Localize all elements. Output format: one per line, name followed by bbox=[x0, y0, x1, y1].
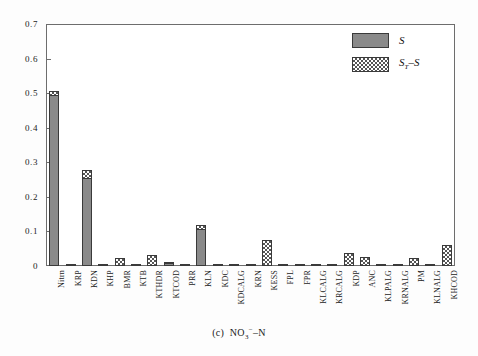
bar-segment-st-minus-s bbox=[262, 240, 272, 266]
y-tick-label: 0.6 bbox=[25, 54, 38, 64]
x-tick-label-prr: PRR bbox=[188, 270, 197, 286]
y-tick-label: 0.3 bbox=[25, 157, 38, 167]
x-tick-label-kdc: KDC bbox=[221, 270, 230, 288]
bar-kdp bbox=[344, 253, 354, 266]
y-tick-label: 0.1 bbox=[25, 226, 38, 236]
x-tick-label-anc: ANC bbox=[368, 270, 377, 288]
legend: S ST–S bbox=[352, 32, 448, 80]
x-tick-label-krcalg: KRCALG bbox=[335, 270, 344, 304]
x-tick-label-kdcalg: KDCALG bbox=[237, 270, 246, 305]
bar-segment-st-minus-s bbox=[82, 170, 92, 179]
x-axis: NitrnKRPKDNKHPBMRKTBKTHDRKTCODPRRKLNKDCK… bbox=[46, 266, 455, 328]
bar-kln bbox=[196, 225, 206, 266]
bar-segment-st-minus-s bbox=[344, 253, 354, 266]
legend-swatch-st-minus-s-icon bbox=[352, 57, 389, 72]
bar-segment-s bbox=[196, 230, 206, 266]
figure-caption: (c) NO3−–N bbox=[0, 326, 478, 341]
y-tick-label: 0.2 bbox=[25, 192, 38, 202]
bar-nitrn bbox=[49, 91, 59, 266]
x-tick-label-klpalg: KLPALG bbox=[384, 270, 393, 302]
legend-label-s: S bbox=[399, 34, 405, 46]
x-tick-label-khcod: KHCOD bbox=[450, 270, 459, 299]
y-axis: 00.10.20.30.40.50.60.7 bbox=[0, 0, 46, 290]
x-tick-label-bmr: BMR bbox=[123, 270, 132, 288]
caption-analyte-sub: 3 bbox=[245, 333, 249, 341]
x-tick-label-fpl: FPL bbox=[286, 270, 295, 284]
caption-analyte: NO3−–N bbox=[227, 327, 266, 338]
x-tick-label-kdp: KDP bbox=[352, 270, 361, 287]
y-tick-label: 0.7 bbox=[25, 19, 38, 29]
legend-swatch-s-icon bbox=[352, 33, 389, 48]
x-tick-label-klnalg: KLNALG bbox=[433, 270, 442, 304]
x-tick-label-pm: PM bbox=[417, 270, 426, 282]
x-tick-label-nitrn: Nitrn bbox=[57, 270, 66, 288]
caption-analyte-pre: NO bbox=[230, 327, 245, 338]
bar-segment-st-minus-s bbox=[442, 245, 452, 266]
x-tick-label-fpr: FPR bbox=[303, 270, 312, 285]
figure-page: 00.10.20.30.40.50.60.7 NitrnKRPKDNKHPBMR… bbox=[0, 0, 478, 356]
x-tick-label-khp: KHP bbox=[106, 270, 115, 287]
x-tick-label-kess: KESS bbox=[270, 270, 279, 290]
x-tick-label-klcalg: KLCALG bbox=[319, 270, 328, 304]
caption-index: (c) bbox=[212, 327, 224, 338]
bar-segment-st-minus-s bbox=[360, 257, 370, 266]
x-tick-label-krn: KRN bbox=[254, 270, 263, 288]
y-tick-label: 0 bbox=[33, 261, 38, 271]
bar-segment-s bbox=[49, 96, 59, 266]
legend-label-st-minus-s: ST–S bbox=[399, 56, 419, 71]
bar-kess bbox=[262, 240, 272, 266]
x-tick-label-kln: KLN bbox=[204, 270, 213, 287]
bar-pm bbox=[409, 258, 419, 266]
legend-item-st-minus-s: ST–S bbox=[352, 56, 448, 72]
legend-item-s: S bbox=[352, 32, 448, 48]
x-tick-label-kthdr: KTHDR bbox=[155, 270, 164, 299]
bar-kthdr bbox=[147, 255, 157, 266]
y-tick-label: 0.4 bbox=[25, 123, 38, 133]
bar-bmr bbox=[115, 258, 125, 266]
bar-kdn bbox=[82, 170, 92, 266]
bar-segment-st-minus-s bbox=[115, 258, 125, 266]
caption-analyte-post: –N bbox=[253, 327, 266, 338]
bar-khcod bbox=[442, 245, 452, 266]
x-tick-label-krnalg: KRNALG bbox=[401, 270, 410, 305]
legend-label-st-tail: –S bbox=[408, 56, 419, 68]
bar-segment-st-minus-s bbox=[409, 258, 419, 266]
x-tick-label-ktb: KTB bbox=[139, 270, 148, 287]
bar-anc bbox=[360, 257, 370, 266]
x-tick-label-krp: KRP bbox=[74, 270, 83, 286]
bar-segment-s bbox=[82, 179, 92, 266]
bar-segment-st-minus-s bbox=[147, 255, 157, 266]
x-tick-label-ktcod: KTCOD bbox=[172, 270, 181, 299]
x-tick-label-kdn: KDN bbox=[90, 270, 99, 288]
y-tick-label: 0.5 bbox=[25, 88, 38, 98]
